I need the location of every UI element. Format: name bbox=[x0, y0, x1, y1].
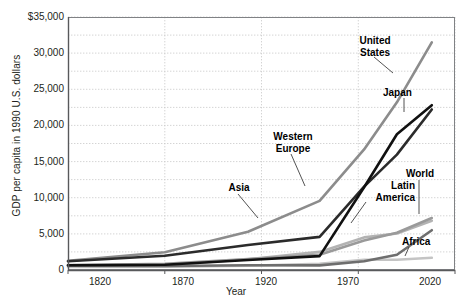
annotation-leader-line bbox=[291, 154, 305, 186]
gdp-per-capita-line-chart: GDP per capita in 1990 U.S. dollars $35,… bbox=[0, 0, 472, 305]
series-label-asia: Asia bbox=[221, 182, 257, 194]
series-label-united-states: United States bbox=[344, 35, 406, 58]
series-label-world: World bbox=[397, 168, 443, 180]
series-label-latin-america: Latin America bbox=[353, 180, 415, 203]
series-label-western-europe: Western Europe bbox=[262, 131, 324, 154]
annotation-leader-line bbox=[374, 57, 393, 73]
series-line-united-states bbox=[68, 42, 432, 261]
series-label-japan: Japan bbox=[383, 87, 429, 99]
series-label-africa: Africa bbox=[402, 236, 448, 248]
